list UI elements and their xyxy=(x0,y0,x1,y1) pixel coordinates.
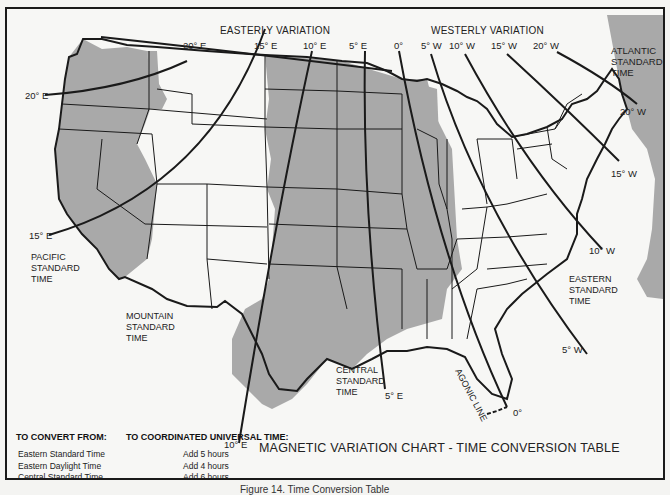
label-20w-bottom: 20° W xyxy=(620,106,646,117)
label-15w-top: 15° W xyxy=(491,40,517,51)
label-15w-bottom: 15° W xyxy=(611,168,637,179)
zone-atlantic: ATLANTIC STANDARD TIME xyxy=(611,45,663,78)
us-map xyxy=(7,9,663,478)
label-5e-bottom: 5° E xyxy=(385,390,403,401)
isogonic-15w xyxy=(507,54,619,161)
agonic-offshore-dash xyxy=(487,407,507,414)
col-header-from: TO CONVERT FROM: xyxy=(16,432,107,442)
chart-frame: EASTERLY VARIATION WESTERLY VARIATION 20… xyxy=(5,7,665,480)
label-10e-top: 10° E xyxy=(303,40,326,51)
label-20w-top: 20° W xyxy=(533,40,559,51)
label-10w-top: 10° W xyxy=(449,40,475,51)
zone-eastern: EASTERN STANDARD TIME xyxy=(569,274,618,307)
label-20e-left: 20° E xyxy=(25,90,48,101)
label-5w-bottom: 5° W xyxy=(562,344,583,355)
zone-mountain: MOUNTAIN STANDARD TIME xyxy=(126,311,175,344)
label-15e-left: 15° E xyxy=(29,230,52,241)
isogonic-10w xyxy=(465,54,602,249)
label-15e-top: 15° E xyxy=(254,40,277,51)
label-20e-top: 20° E xyxy=(183,40,206,51)
label-0-top: 0° xyxy=(394,40,403,51)
easterly-variation-header: EASTERLY VARIATION xyxy=(220,25,330,36)
chart-title: MAGNETIC VARIATION CHART - TIME CONVERSI… xyxy=(259,441,620,455)
label-0-bottom: 0° xyxy=(513,407,522,418)
zone-central: CENTRAL STANDARD TIME xyxy=(336,365,385,398)
figure-caption: Figure 14. Time Conversion Table xyxy=(240,484,389,495)
label-5e-top: 5° E xyxy=(349,40,367,51)
idaho-shade xyxy=(147,51,167,109)
label-10w-bottom: 10° W xyxy=(589,245,615,256)
label-5w-top: 5° W xyxy=(421,40,442,51)
zone-pacific: PACIFIC STANDARD TIME xyxy=(31,252,80,285)
westerly-variation-header: WESTERLY VARIATION xyxy=(431,25,544,36)
pacific-zone xyxy=(55,39,157,279)
